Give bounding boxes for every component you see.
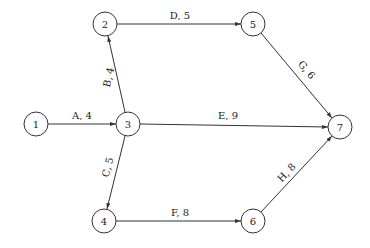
edge-h: H, 8 xyxy=(261,136,332,212)
edge-label-e: E, 9 xyxy=(218,110,238,121)
edge-b: B, 4 xyxy=(101,36,125,112)
node-7: 7 xyxy=(328,115,352,139)
node-4: 4 xyxy=(92,209,116,233)
edge-label-a: A, 4 xyxy=(71,110,92,121)
edge-label-g: G, 6 xyxy=(296,58,318,81)
node-label-1: 1 xyxy=(33,119,39,130)
node-label-6: 6 xyxy=(250,216,256,227)
edge-label-f: F, 8 xyxy=(171,207,189,218)
node-label-5: 5 xyxy=(250,19,256,30)
node-5: 5 xyxy=(241,12,265,36)
edge-g: G, 6 xyxy=(261,33,332,118)
edge-label-b: B, 4 xyxy=(101,66,116,88)
edge-label-h: H, 8 xyxy=(275,161,298,184)
node-2: 2 xyxy=(93,12,117,36)
edge-label-d: D, 5 xyxy=(170,10,190,21)
node-6: 6 xyxy=(241,209,265,233)
edge-f: F, 8 xyxy=(116,207,241,221)
edge-label-c: C, 5 xyxy=(100,156,116,178)
edge-a: A, 4 xyxy=(48,110,116,124)
edge-e: E, 9 xyxy=(140,110,328,127)
network-diagram: A, 4 B, 4 C, 5 D, 5 E, 9 F, 8 G, 6 H, 8 … xyxy=(0,0,370,248)
node-label-3: 3 xyxy=(125,119,131,130)
edge-c: C, 5 xyxy=(100,136,125,209)
node-label-4: 4 xyxy=(101,216,107,227)
node-1: 1 xyxy=(24,112,48,136)
node-label-2: 2 xyxy=(102,19,108,30)
node-label-7: 7 xyxy=(337,122,343,133)
node-3: 3 xyxy=(116,112,140,136)
edge-d: D, 5 xyxy=(117,10,241,24)
